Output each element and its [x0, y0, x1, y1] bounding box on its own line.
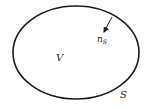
diagram-canvas: nS V S — [0, 0, 151, 108]
volume-label: V — [56, 52, 65, 63]
surface-label: S — [120, 89, 127, 100]
surface-boundary — [13, 6, 139, 99]
normal-vector-arrow — [104, 17, 112, 32]
normal-vector-label: nS — [97, 34, 107, 45]
